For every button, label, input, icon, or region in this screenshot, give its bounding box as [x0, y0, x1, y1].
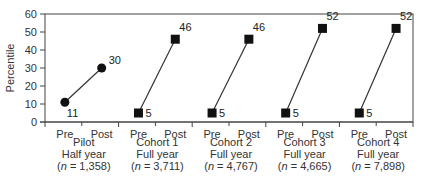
pre-post-line — [359, 28, 396, 113]
y-axis-title: Percentile — [4, 44, 16, 93]
pre-post-line — [286, 28, 323, 113]
group-sample-size: (n = 4,767) — [204, 160, 258, 172]
y-tick-label: 60 — [25, 8, 37, 20]
square-marker-post — [171, 35, 180, 44]
x-label-pre: Pre — [56, 128, 73, 140]
circle-marker-post — [97, 64, 106, 73]
square-marker-post — [244, 35, 253, 44]
group-duration: Full year — [136, 148, 179, 160]
pre-post-percentile-chart: 0102030405060 PrePostPrePostPrePostPrePo… — [0, 0, 423, 178]
square-marker-post — [318, 24, 327, 33]
group-name: Pilot — [73, 136, 94, 148]
group-name: Cohort 3 — [283, 136, 325, 148]
value-label-pre: 5 — [219, 107, 225, 119]
square-marker-pre — [208, 109, 217, 118]
group-sample-size: (n = 1,358) — [57, 160, 111, 172]
group-sample-size: (n = 3,711) — [131, 160, 184, 172]
group-name: Cohort 1 — [136, 136, 178, 148]
pre-post-line — [65, 68, 102, 102]
value-label-pre: 5 — [293, 107, 299, 119]
data-series: 1130546546552552 — [60, 10, 412, 119]
group-name: Cohort 2 — [210, 136, 252, 148]
square-marker-post — [392, 24, 401, 33]
group-name: Cohort 4 — [357, 136, 399, 148]
group-duration: Full year — [284, 148, 327, 160]
value-label-pre: 5 — [366, 107, 372, 119]
value-label-post: 46 — [179, 21, 191, 33]
value-label-pre: 11 — [67, 107, 78, 119]
value-label-post: 52 — [326, 10, 338, 22]
group-sample-size: (n = 7,898) — [351, 160, 405, 172]
pre-post-line — [212, 39, 249, 113]
group-sample-size: (n = 4,665) — [278, 160, 332, 172]
group-duration: Full year — [210, 148, 253, 160]
group-duration: Full year — [357, 148, 400, 160]
square-marker-pre — [355, 109, 364, 118]
y-tick-label: 20 — [25, 80, 37, 92]
group-duration: Half year — [62, 148, 106, 160]
y-axis: 0102030405060 — [25, 8, 45, 128]
value-label-pre: 5 — [145, 107, 151, 119]
value-label-post: 30 — [109, 54, 121, 66]
y-tick-label: 50 — [25, 26, 37, 38]
y-tick-label: 30 — [25, 62, 37, 74]
value-label-post: 52 — [400, 10, 412, 22]
y-tick-label: 10 — [25, 98, 37, 110]
square-marker-pre — [281, 109, 290, 118]
circle-marker-pre — [60, 98, 69, 107]
square-marker-pre — [134, 109, 143, 118]
y-tick-label: 40 — [25, 44, 37, 56]
value-label-post: 46 — [253, 21, 265, 33]
pre-post-line — [138, 39, 175, 113]
group-labels: PilotHalf year(n = 1,358)Cohort 1Full ye… — [57, 136, 405, 172]
y-tick-label: 0 — [31, 116, 37, 128]
